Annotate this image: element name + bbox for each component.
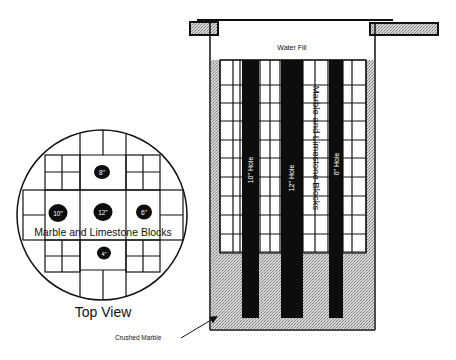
drain-diagram: Water Fill 10" Hole 12" Hole 6" Hole Mar… <box>0 0 456 360</box>
hole-10-inch <box>242 60 259 318</box>
top-view-title: Top View <box>75 304 132 320</box>
svg-text:12": 12" <box>98 209 108 216</box>
hole-6-inch <box>329 60 343 318</box>
hole-12-top: 12" <box>94 203 113 221</box>
svg-text:8": 8" <box>99 169 106 176</box>
svg-text:4": 4" <box>101 251 106 257</box>
svg-text:10": 10" <box>53 210 63 217</box>
crushed-marble-label: Crushed Marble <box>115 334 162 341</box>
hole-4-top: 4" <box>97 247 111 260</box>
water-fill-label: Water Fill <box>277 44 307 51</box>
hole-8-top: 8" <box>94 165 110 179</box>
left-flange <box>190 22 218 35</box>
hole-10-top: 10" <box>49 204 68 222</box>
blocks-vertical-label: Marble and Limestone Blocks <box>311 86 322 211</box>
hole-10-label: 10" Hole <box>247 157 254 184</box>
hole-6-label: 6" Hole <box>333 153 340 176</box>
top-view-blocks-label: Marble and Limestone Blocks <box>34 226 172 238</box>
side-view: Water Fill 10" Hole 12" Hole 6" Hole Mar… <box>115 20 438 341</box>
right-flange <box>370 23 438 35</box>
hole-6-top: 6" <box>136 205 152 220</box>
svg-text:6": 6" <box>141 209 148 216</box>
hole-12-label: 12" Hole <box>288 165 295 192</box>
top-view: 8" 10" 12" 6" 4" Marble and Limestone Bl… <box>17 128 187 320</box>
